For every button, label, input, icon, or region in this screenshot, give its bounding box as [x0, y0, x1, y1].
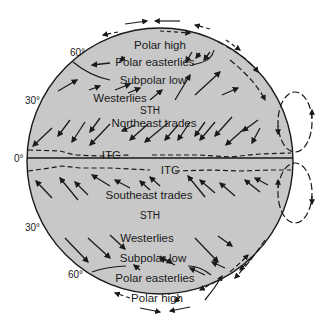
label-north-polar-high: Polar high	[134, 39, 186, 51]
lat-label-south-30: 30°	[25, 222, 40, 233]
lat-label-north-30: 30°	[25, 95, 40, 106]
label-south-polar-high: Polar high	[131, 292, 183, 304]
label-north-sth: STH	[140, 105, 160, 116]
lat-label-north-60: 60°	[70, 47, 85, 58]
label-north-polar-easterlies: Polar easterlies	[115, 56, 195, 68]
lat-label-equator: 0°	[14, 153, 24, 164]
label-southeast-trades: Southeast trades	[106, 189, 193, 201]
circulation-diagram: 60° 30° 0° 30° 60° Polar high Polar east…	[0, 0, 320, 322]
label-north-itc: ITC	[102, 149, 121, 161]
label-south-sth: STH	[140, 210, 160, 221]
label-south-subpolar-low: Subpolar low	[120, 252, 187, 264]
label-south-westerlies: Westerlies	[120, 232, 174, 244]
label-northeast-trades: Northeast trades	[111, 117, 196, 129]
lat-label-south-60: 60°	[68, 269, 83, 280]
label-south-itc: ITC	[161, 164, 180, 176]
label-south-polar-easterlies: Polar easterlies	[115, 272, 195, 284]
label-north-westerlies: Westerlies	[93, 92, 147, 104]
label-north-subpolar-low: Subpolar low	[120, 74, 187, 86]
